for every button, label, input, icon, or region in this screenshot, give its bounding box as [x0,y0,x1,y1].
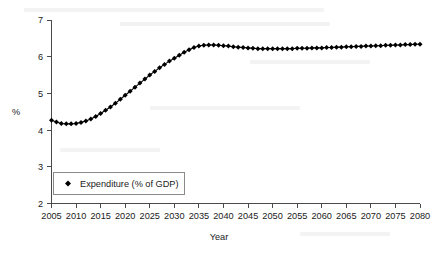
chart-legend: Expenditure (% of GDP) [54,173,185,195]
data-point-marker [329,45,334,50]
data-point-marker [191,45,196,50]
x-tick-label: 2055 [287,211,307,221]
data-point-marker [334,45,339,50]
data-point-marker [270,46,275,51]
y-tick-label: 3 [38,162,43,172]
x-tick-label: 2070 [361,211,381,221]
data-point-marker [324,45,329,50]
data-point-marker [363,44,368,49]
x-tick-label: 2020 [115,211,135,221]
data-point-marker [221,43,226,48]
y-tick-label: 6 [38,52,43,62]
data-point-marker [413,42,418,47]
data-point-marker [49,118,54,123]
data-point-marker [250,46,255,51]
data-point-marker [216,43,221,48]
data-point-marker [187,47,192,52]
data-point-marker [83,118,88,123]
data-point-marker [378,43,383,48]
data-point-marker [206,42,211,47]
data-point-marker [280,46,285,51]
data-point-marker [359,44,364,49]
x-tick-label: 2005 [41,211,61,221]
y-axis-title: % [12,107,20,117]
x-tick-label: 2015 [90,211,110,221]
x-tick-label: 2050 [262,211,282,221]
data-point-marker [290,46,295,51]
y-tick-label: 7 [38,15,43,25]
chart-figure: 234567 200520102015202020252030203520402… [0,0,435,253]
x-tick-label: 2035 [189,211,209,221]
data-point-marker [275,46,280,51]
data-point-marker [260,46,265,51]
x-tick-label: 2075 [385,211,405,221]
data-point-marker [211,42,216,47]
x-tick-label: 2025 [140,211,160,221]
data-point-marker [314,45,319,50]
x-axis-title: Year [210,232,229,242]
chart-plot-area: 234567 200520102015202020252030203520402… [0,0,435,253]
data-point-marker [64,121,69,126]
x-tick-label: 2080 [410,211,430,221]
data-point-marker [182,50,187,55]
data-point-marker [309,45,314,50]
data-point-marker [226,44,231,49]
x-tick-label: 2060 [312,211,332,221]
data-point-marker [93,114,98,119]
data-series-expenditure [49,42,423,127]
data-point-marker [74,121,79,126]
data-point-marker [388,43,393,48]
data-point-marker [319,45,324,50]
data-point-marker [398,42,403,47]
x-tick-label: 2065 [336,211,356,221]
data-point-marker [354,44,359,49]
data-point-marker [383,43,388,48]
y-tick-label: 2 [38,199,43,209]
data-point-marker [300,46,305,51]
data-point-marker [69,121,74,126]
data-point-marker [295,46,300,51]
data-point-marker [241,45,246,50]
y-tick-label: 4 [38,126,43,136]
data-point-marker [403,42,408,47]
data-point-marker [408,42,413,47]
data-point-marker [177,53,182,58]
x-tick-label: 2040 [213,211,233,221]
x-axis-ticks: 2005201020152020202520302035204020452050… [41,204,430,221]
data-point-marker [54,120,59,125]
data-point-marker [304,46,309,51]
data-point-marker [393,42,398,47]
y-tick-label: 5 [38,89,43,99]
data-point-marker [78,120,83,125]
x-tick-label: 2010 [66,211,86,221]
y-axis-ticks: 234567 [38,15,52,209]
legend-label: Expenditure (% of GDP) [80,179,179,189]
data-point-marker [344,44,349,49]
data-point-marker [418,42,423,47]
data-point-marker [196,44,201,49]
data-point-marker [59,121,64,126]
x-tick-label: 2030 [164,211,184,221]
data-point-marker [236,45,241,50]
series-line [52,44,421,124]
data-point-marker [231,44,236,49]
data-point-marker [172,56,177,61]
data-point-marker [246,45,251,50]
x-tick-label: 2045 [238,211,258,221]
data-point-marker [265,46,270,51]
data-point-marker [285,46,290,51]
data-point-marker [201,43,206,48]
data-point-marker [88,117,93,122]
data-point-marker [368,44,373,49]
data-point-marker [255,46,260,51]
data-point-marker [349,44,354,49]
data-point-marker [373,43,378,48]
data-point-marker [339,45,344,50]
